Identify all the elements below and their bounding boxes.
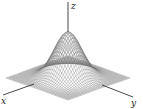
y-axis: [102, 85, 133, 97]
mesh-line-y: [28, 45, 90, 86]
mesh-line-y: [26, 48, 88, 84]
surface-plot: z x y: [0, 0, 143, 109]
y-axis-label: y: [130, 98, 137, 108]
mesh-line-y: [59, 75, 121, 97]
mesh-line-x: [46, 45, 108, 86]
x-axis: [3, 84, 34, 95]
mesh-line-y: [12, 58, 74, 80]
mesh-line-y: [8, 57, 70, 79]
mesh-line-x: [15, 75, 77, 97]
x-axis-label: x: [1, 96, 6, 106]
mesh-line-x: [20, 73, 82, 95]
surface-mesh: [6, 32, 130, 100]
mesh-line-y: [54, 73, 116, 95]
z-axis-label: z: [70, 1, 76, 11]
mesh-line-y: [62, 76, 124, 98]
